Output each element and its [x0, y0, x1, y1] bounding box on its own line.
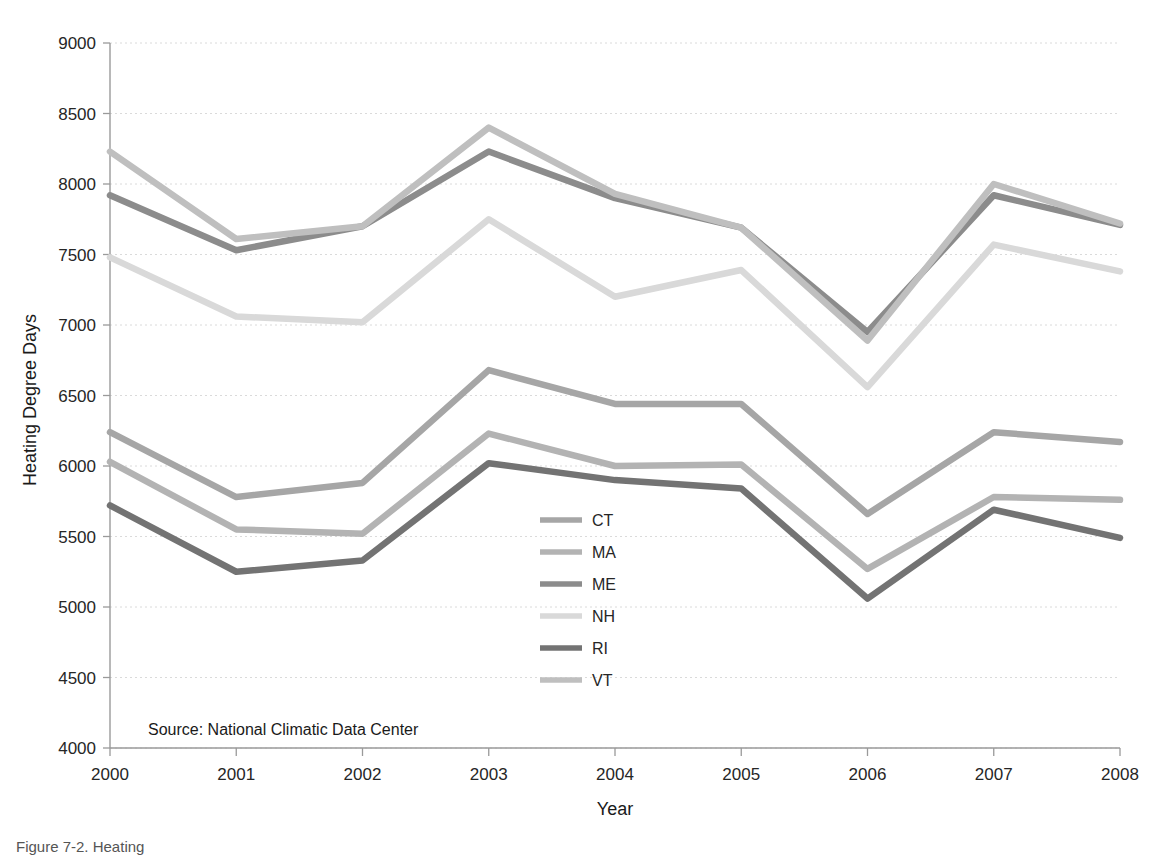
x-axis-tick-label: 2007: [975, 765, 1013, 784]
x-axis-tick-label: 2004: [596, 765, 634, 784]
x-axis-tick-label: 2001: [217, 765, 255, 784]
x-axis-tick-label: 2000: [91, 765, 129, 784]
x-axis-tick-label: 2002: [344, 765, 382, 784]
x-axis-tick-label: 2003: [470, 765, 508, 784]
y-axis-tick-label: 5500: [58, 528, 96, 547]
y-axis-tick-label: 4000: [58, 739, 96, 758]
y-axis-tick-label: 9000: [58, 34, 96, 53]
legend-label-me[interactable]: ME: [592, 576, 616, 593]
y-axis-tick-label: 7000: [58, 316, 96, 335]
figure-root: 4000450050005500600065007000750080008500…: [0, 0, 1152, 856]
legend-label-ma[interactable]: MA: [592, 544, 616, 561]
y-axis-tick-label: 5000: [58, 598, 96, 617]
x-axis-title: Year: [597, 799, 633, 819]
y-axis-tick-label: 6000: [58, 457, 96, 476]
legend-label-nh[interactable]: NH: [592, 608, 615, 625]
y-axis-tick-label: 4500: [58, 669, 96, 688]
y-axis-tick-label: 8500: [58, 105, 96, 124]
y-axis-tick-label: 8000: [58, 175, 96, 194]
figure-caption: Figure 7-2. Heating: [16, 838, 144, 855]
y-axis-title: Heating Degree Days: [20, 314, 40, 486]
heating-degree-days-line-chart: 4000450050005500600065007000750080008500…: [0, 0, 1152, 856]
y-axis-tick-label: 6500: [58, 387, 96, 406]
x-axis-tick-label: 2005: [722, 765, 760, 784]
y-axis-tick-label: 7500: [58, 246, 96, 265]
source-note: Source: National Climatic Data Center: [148, 721, 419, 738]
x-axis-tick-label: 2006: [849, 765, 887, 784]
legend-label-ri[interactable]: RI: [592, 640, 608, 657]
legend-label-ct[interactable]: CT: [592, 512, 614, 529]
legend-label-vt[interactable]: VT: [592, 672, 613, 689]
x-axis-tick-label: 2008: [1101, 765, 1139, 784]
